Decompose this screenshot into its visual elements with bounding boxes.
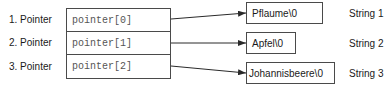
string-box-2: Apfel\0 <box>246 32 296 54</box>
arrow-1 <box>171 13 246 19</box>
arrow-3 <box>171 66 246 73</box>
string-label-1: String 1 <box>349 8 383 20</box>
string-box-1: Pflaume\0 <box>246 2 323 24</box>
string-label-3: String 3 <box>349 68 383 80</box>
string-label-2: String 2 <box>349 38 383 50</box>
string-box-3: Johannisbeere\0 <box>246 62 335 84</box>
